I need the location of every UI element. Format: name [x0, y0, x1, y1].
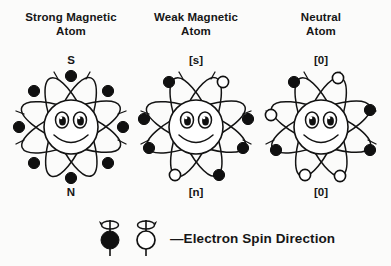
- column-title-line2: Atom: [256, 24, 386, 38]
- pole-label-top-strong: S: [6, 54, 136, 66]
- column-title-line1: Weak Magnetic: [131, 10, 261, 24]
- legend: —Electron Spin Direction: [0, 216, 391, 266]
- atom-illustration-neutral: [262, 70, 380, 184]
- open-sphere-spin-symbol: [128, 218, 164, 258]
- column-title-line1: Strong Magnetic: [6, 10, 136, 24]
- column-title-line2: Atom: [131, 24, 261, 38]
- pole-label-top-weak: [s]: [131, 54, 261, 66]
- atom-spin-diagram: Strong Magnetic Atom S: [0, 0, 391, 266]
- column-title-weak-magnetic: Weak Magnetic Atom: [131, 10, 261, 38]
- atom-column-strong-magnetic: Strong Magnetic Atom S: [6, 0, 136, 215]
- pole-label-bottom-weak: [n]: [131, 186, 261, 198]
- column-title-strong-magnetic: Strong Magnetic Atom: [6, 10, 136, 38]
- column-title-neutral: Neutral Atom: [256, 10, 386, 38]
- atom-illustration-strong-magnetic: [12, 70, 130, 184]
- column-title-line2: Atom: [6, 24, 136, 38]
- pole-label-bottom-neutral: [0]: [256, 186, 386, 198]
- pole-label-top-neutral: [0]: [256, 54, 386, 66]
- pole-label-bottom-strong: N: [6, 186, 136, 198]
- filled-sphere-spin-symbol: [92, 218, 128, 258]
- atom-column-weak-magnetic: Weak Magnetic Atom [s]: [131, 0, 261, 215]
- atom-column-neutral: Neutral Atom [0]: [256, 0, 386, 215]
- legend-label: —Electron Spin Direction: [170, 231, 335, 246]
- atom-illustration-weak-magnetic: [137, 70, 255, 184]
- column-title-line1: Neutral: [256, 10, 386, 24]
- legend-inner: —Electron Spin Direction: [92, 216, 335, 260]
